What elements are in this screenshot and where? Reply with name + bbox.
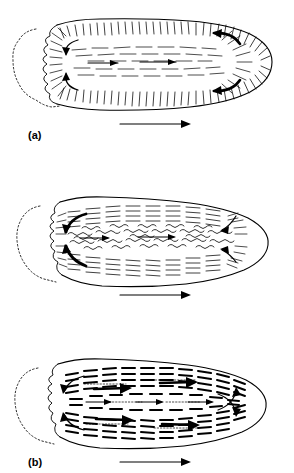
figure-amoeboid-streaming: (a) bbox=[0, 0, 294, 473]
cell-rear-uroid-outline-c bbox=[15, 368, 54, 444]
cell-body-outline-b bbox=[60, 197, 268, 287]
cell-rear-uroid-outline-b bbox=[17, 206, 56, 282]
panel-c-drawing bbox=[0, 330, 294, 473]
cortex-hatching-bottom-a bbox=[60, 66, 270, 106]
panel-b-drawing bbox=[0, 160, 294, 330]
panel-a-drawing bbox=[0, 0, 294, 160]
cortex-dash-columns-top-b bbox=[68, 206, 220, 227]
panel-c: (c) bbox=[0, 330, 294, 473]
direction-of-movement-arrow-a bbox=[120, 120, 191, 128]
axial-flow-arrows-b bbox=[80, 234, 176, 241]
rear-fan-hatching-a bbox=[50, 28, 66, 96]
cell-rear-inner-edge-b bbox=[50, 202, 62, 275]
front-fountain-arrows-a bbox=[212, 29, 240, 95]
rear-recirculation-arrows-a bbox=[62, 40, 78, 90]
panel-label-a: (a) bbox=[28, 130, 41, 141]
direction-of-movement-arrow-c bbox=[120, 458, 191, 466]
direction-of-movement-arrow-b bbox=[120, 291, 191, 299]
panel-a: (a) bbox=[0, 0, 294, 160]
filament-bundles-top-c bbox=[66, 368, 245, 396]
cortex-dash-columns-bottom-b bbox=[68, 254, 220, 276]
cell-body-outline-a bbox=[57, 19, 272, 110]
front-fountain-arrows-b bbox=[220, 216, 236, 262]
panel-b: (b) bbox=[0, 160, 294, 330]
axial-flow-arrows-c bbox=[86, 399, 214, 405]
rear-recirculation-arrows-c bbox=[60, 376, 84, 430]
cell-rear-inner-edge-c bbox=[48, 364, 60, 437]
cell-rear-uroid-outline-a bbox=[13, 29, 60, 107]
axial-flow-arrows-a bbox=[88, 59, 176, 66]
